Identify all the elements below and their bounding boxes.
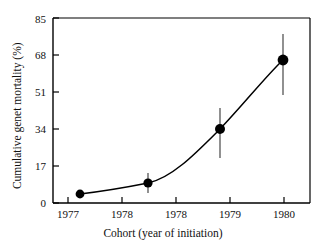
data-point-1977 [76, 190, 85, 199]
axis-lines [53, 18, 310, 203]
data-line [80, 60, 283, 194]
x-tick-marks [68, 197, 284, 203]
x-tick-label-4: 1980 [273, 209, 295, 220]
data-markers [76, 55, 289, 199]
data-point-1980 [278, 55, 289, 66]
chart-figure: 0 17 34 51 68 85 1977 1978 1978 1979 198… [0, 0, 326, 252]
data-point-1979 [215, 124, 225, 134]
x-tick-label-0: 1977 [57, 209, 79, 220]
y-axis-title: Cumulative genet mortality (%) [12, 26, 24, 206]
x-tick-label-3: 1979 [219, 209, 241, 220]
x-tick-label-2: 1978 [165, 209, 187, 220]
x-tick-label-1: 1978 [111, 209, 133, 220]
error-bars [148, 34, 283, 193]
y-tick-marks [53, 18, 59, 203]
y-tick-label-85: 85 [18, 14, 46, 25]
x-axis-title: Cohort (year of initiation) [0, 228, 326, 240]
data-point-1978a [143, 178, 152, 187]
